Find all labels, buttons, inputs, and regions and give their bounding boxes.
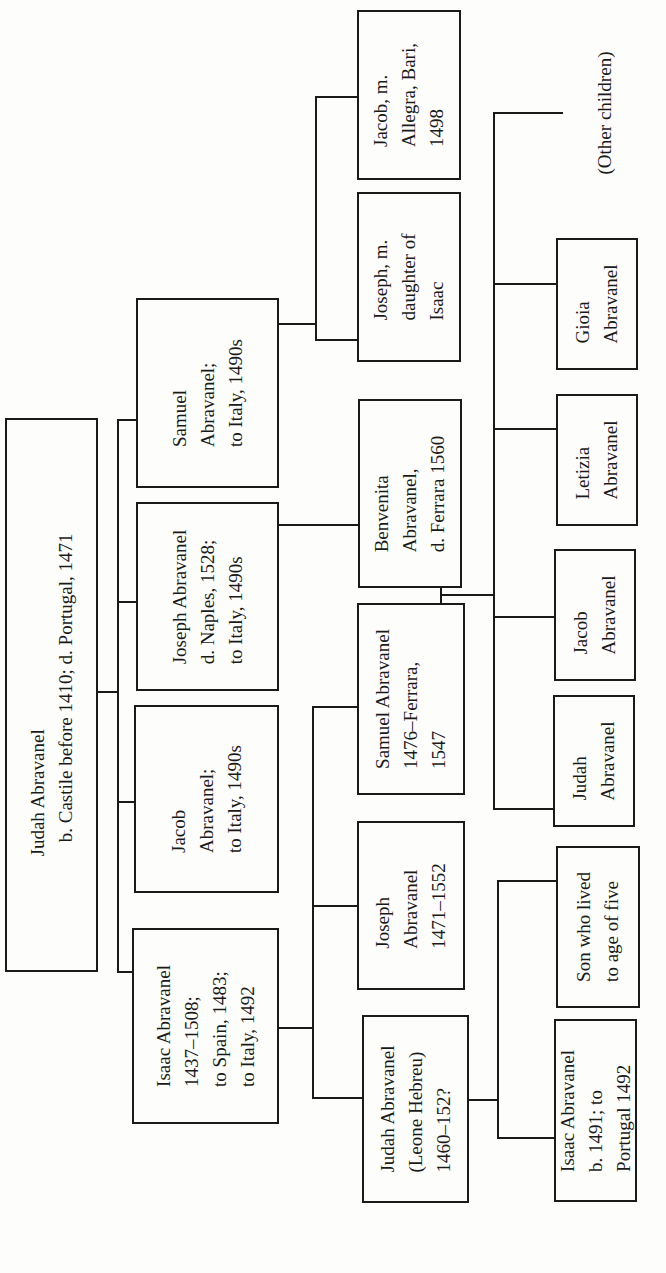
connector-line xyxy=(312,706,358,708)
connector-line xyxy=(493,808,553,810)
family-tree-diagram: Judah Abravanel b. Castile before 1410; … xyxy=(0,0,666,1273)
person-label: Isaac Abravanel 1437–1508; to Spain, 148… xyxy=(150,965,262,1087)
person-label: Son who lived to age of five xyxy=(570,872,626,982)
connector-line xyxy=(312,905,358,907)
other-children-label: (Other children) xyxy=(591,52,619,175)
person-box-samuel-2: Samuel Abravanel 1476–Ferrara, 1547 xyxy=(357,603,465,795)
person-label: Benvenita Abravanel, d. Ferrara 1560 xyxy=(368,435,452,552)
person-box-samuel-1: Samuel Abravanel; to Italy, 1490s xyxy=(136,298,279,488)
connector-line xyxy=(493,112,495,810)
person-box-isaac: Isaac Abravanel 1437–1508; to Spain, 148… xyxy=(132,928,279,1124)
person-label: Judah Abravanel (Leone Hebreu) 1460–152? xyxy=(374,1045,458,1172)
person-box-letizia: Letizia Abravanel xyxy=(556,394,638,526)
person-box-judah-3: Judah Abravanel xyxy=(553,695,635,827)
connector-line xyxy=(497,1137,554,1139)
person-label: Judah Abravanel xyxy=(566,721,622,800)
connector-line xyxy=(493,428,556,430)
person-box-judah-leone: Judah Abravanel (Leone Hebreu) 1460–152? xyxy=(362,1015,469,1203)
person-label: Letizia Abravanel xyxy=(569,420,625,499)
connector-line xyxy=(117,419,119,972)
connector-line xyxy=(497,880,556,882)
person-box-gioia: Gioia Abravanel xyxy=(556,238,638,370)
person-box-jacob-3: Jacob, m. Allegra, Bari, 1498 xyxy=(357,10,461,180)
person-box-joseph-3: Joseph, m. daughter of Isaac xyxy=(357,192,461,362)
person-label: Jacob Abravanel; to Italy, 1490s xyxy=(165,745,249,853)
connector-line xyxy=(278,323,316,325)
person-label: Isaac Abravanel b. 1491; to Portugal 149… xyxy=(554,1050,638,1172)
connector-line xyxy=(312,706,314,1099)
person-box-isaac-2: Isaac Abravanel b. 1491; to Portugal 149… xyxy=(554,1019,637,1202)
person-box-son-five: Son who lived to age of five xyxy=(556,846,640,1008)
connector-line xyxy=(315,96,317,341)
person-box-benvenita: Benvenita Abravanel, d. Ferrara 1560 xyxy=(358,399,462,588)
connector-line xyxy=(117,601,136,603)
person-label: Jacob, m. Allegra, Bari, 1498 xyxy=(367,43,451,147)
connector-line xyxy=(497,880,499,1139)
person-box-joseph-2: Joseph Abravanel 1471–1552 xyxy=(357,821,465,990)
person-label: Samuel Abravanel; to Italy, 1490s xyxy=(166,339,250,447)
person-box-jacob-1: Jacob Abravanel; to Italy, 1490s xyxy=(134,705,279,893)
person-label: Jacob Abravanel xyxy=(567,575,623,654)
connector-line xyxy=(117,419,136,421)
person-label: Joseph, m. daughter of Isaac xyxy=(367,233,451,320)
connector-line xyxy=(97,691,119,693)
connector-line xyxy=(493,616,554,618)
connector-line xyxy=(468,1099,499,1101)
connector-line xyxy=(493,283,556,285)
person-label: Joseph Abravanel d. Naples, 1528; to Ita… xyxy=(166,529,250,664)
connector-line xyxy=(312,1097,362,1099)
person-label: Samuel Abravanel 1476–Ferrara, 1547 xyxy=(369,629,453,769)
person-label: Gioia Abravanel xyxy=(569,264,625,343)
connector-line xyxy=(278,524,359,526)
connector-line xyxy=(315,96,358,98)
person-box-joseph-1: Joseph Abravanel d. Naples, 1528; to Ita… xyxy=(136,502,279,691)
person-label: Joseph Abravanel 1471–1552 xyxy=(369,863,453,949)
connector-line xyxy=(493,112,563,114)
connector-line xyxy=(315,339,358,341)
person-box-jacob-4: Jacob Abravanel xyxy=(554,549,636,681)
connector-line xyxy=(440,594,495,596)
connector-line xyxy=(278,1027,314,1029)
person-box-judah-root: Judah Abravanel b. Castile before 1410; … xyxy=(5,418,98,972)
person-label: Judah Abravanel b. Castile before 1410; … xyxy=(24,534,80,857)
